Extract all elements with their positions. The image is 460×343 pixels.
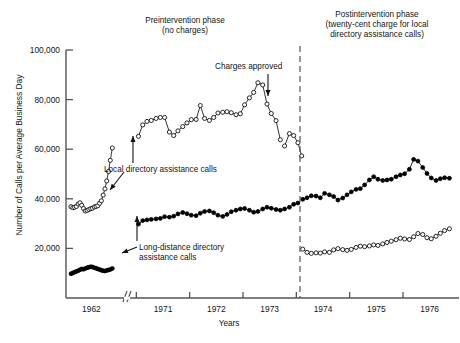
- x-tick-label-1974: 1974: [300, 304, 346, 314]
- y-tick-label-40000: 40,000: [8, 194, 60, 204]
- y-tick-label-60000: 60,000: [8, 144, 60, 154]
- chart-figure: Number of Calls per Average Business Day…: [0, 0, 460, 343]
- x-tick-label-1973: 1973: [247, 304, 293, 314]
- x-tick-label-1962: 1962: [68, 304, 114, 314]
- y-tick-label-100000: 100,000: [8, 45, 60, 55]
- chart-series-layer: [69, 81, 451, 276]
- postintervention-phase-title-line2: (twenty-cent charge for local: [296, 20, 458, 30]
- chart-plot-area: [0, 0, 460, 343]
- y-axis-title: Number of Calls per Average Business Day: [14, 50, 24, 260]
- preintervention-phase-title-line2: (no charges): [118, 26, 252, 36]
- long-distance-annotation-line1: Long-distance directory: [139, 243, 224, 253]
- long-distance-annotation-line2: assistance calls: [139, 253, 196, 263]
- x-tick-label-1971: 1971: [140, 304, 186, 314]
- x-tick-label-1975: 1975: [353, 304, 399, 314]
- postintervention-phase-title-line3: directory assistance calls): [296, 30, 458, 40]
- y-axis-title-wrapper: Number of Calls per Average Business Day: [0, 0, 1, 1]
- x-tick-label-1972: 1972: [193, 304, 239, 314]
- charges-approved-annotation: Charges approved: [215, 62, 282, 72]
- postintervention-phase-title-line1: Postintervention phase: [296, 10, 458, 20]
- x-tick-label-1976: 1976: [407, 304, 453, 314]
- y-tick-label-80000: 80,000: [8, 95, 60, 105]
- x-axis-title: Years: [199, 319, 259, 329]
- y-tick-label-20000: 20,000: [8, 243, 60, 253]
- preintervention-phase-title-line1: Preintervention phase: [118, 16, 252, 26]
- local-directory-assistance-annotation: Local directory assistance calls: [104, 165, 217, 175]
